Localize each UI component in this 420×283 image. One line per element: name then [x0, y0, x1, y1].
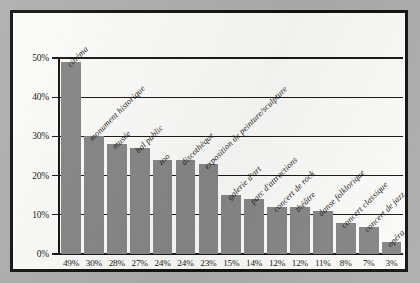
y-axis-tick-label: 50%: [32, 53, 49, 63]
value-label: 15%: [220, 258, 243, 268]
bar[interactable]: [153, 160, 173, 254]
bar-slot[interactable]: [82, 58, 105, 254]
value-label: 8%: [334, 258, 357, 268]
chart-frame: 0%10%20%30%40%50% cinémamonument histori…: [10, 10, 408, 272]
chart-page: 0%10%20%30%40%50% cinémamonument histori…: [0, 0, 420, 283]
y-axis-tick-label: 10%: [32, 210, 49, 220]
bar[interactable]: [61, 62, 81, 254]
bar[interactable]: [244, 199, 264, 254]
bar[interactable]: [199, 164, 219, 254]
bars-group: [60, 58, 403, 254]
value-label: 12%: [266, 258, 289, 268]
y-axis-tick: [52, 253, 58, 254]
bar[interactable]: [84, 136, 104, 254]
value-label: 27%: [128, 258, 151, 268]
y-axis-tick: [52, 175, 58, 176]
value-label: 23%: [197, 258, 220, 268]
y-axis-tick-label: 30%: [32, 131, 49, 141]
y-axis-tick-label: 40%: [32, 92, 49, 102]
bar-slot[interactable]: [311, 58, 334, 254]
value-label: 30%: [82, 258, 105, 268]
value-label: 24%: [151, 258, 174, 268]
bar-slot[interactable]: [243, 58, 266, 254]
y-axis-tick-label: 20%: [32, 171, 49, 181]
bar[interactable]: [176, 160, 196, 254]
value-label: 24%: [174, 258, 197, 268]
value-label: 28%: [105, 258, 128, 268]
y-axis-tick: [52, 136, 58, 137]
plot-area: 0%10%20%30%40%50% cinémamonument histori…: [58, 58, 403, 254]
bar-slot[interactable]: [380, 58, 403, 254]
y-axis-tick: [52, 57, 58, 58]
y-axis-tick: [52, 97, 58, 98]
value-label: 14%: [243, 258, 266, 268]
value-label: 3%: [380, 258, 403, 268]
value-label: 11%: [311, 258, 334, 268]
value-labels-row: 49%30%28%27%24%24%23%15%14%12%12%11%8%7%…: [60, 258, 403, 274]
value-label: 49%: [60, 258, 83, 268]
value-label: 7%: [357, 258, 380, 268]
bar-slot[interactable]: [105, 58, 128, 254]
value-label: 12%: [289, 258, 312, 268]
y-axis-tick-label: 0%: [37, 249, 49, 259]
bar[interactable]: [130, 148, 150, 254]
bar[interactable]: [107, 144, 127, 254]
y-axis-tick: [52, 214, 58, 215]
bar[interactable]: [221, 195, 241, 254]
bar-slot[interactable]: [60, 58, 83, 254]
